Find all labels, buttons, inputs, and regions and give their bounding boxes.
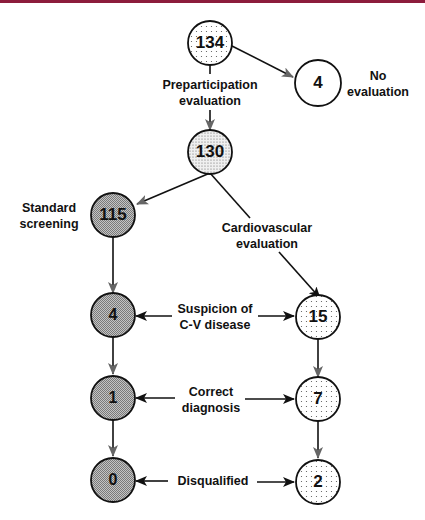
- label-disqualified: Disqualified: [170, 473, 256, 489]
- label-standard-line1: Standard: [14, 200, 84, 216]
- arrow-to-115: [137, 173, 210, 204]
- label-suspicion-line2: C-V disease: [172, 317, 258, 333]
- node-cv-2-value: 2: [313, 472, 322, 492]
- label-preparticipation-line2: evaluation: [152, 93, 268, 109]
- label-cardio-line1: Cardiovascular: [214, 220, 320, 236]
- label-standard-screening: Standard screening: [14, 200, 84, 232]
- node-std-4-value: 4: [109, 306, 118, 324]
- label-standard-line2: screening: [14, 216, 84, 232]
- label-correct-diagnosis: Correct diagnosis: [176, 384, 246, 416]
- node-130-value: 130: [196, 142, 224, 162]
- label-cardio-line2: evaluation: [214, 236, 320, 252]
- node-no-eval-value: 4: [313, 73, 322, 93]
- arrow-to-no-eval: [230, 45, 293, 77]
- label-correct-line1: Correct: [176, 384, 246, 400]
- node-std-1-value: 1: [109, 389, 118, 407]
- label-suspicion-line1: Suspicion of: [172, 301, 258, 317]
- node-cv-7-value: 7: [313, 389, 322, 409]
- label-no-evaluation: No evaluation: [343, 68, 413, 100]
- line-to-cardio-label: [210, 173, 250, 218]
- node-cv-15-value: 15: [309, 307, 328, 327]
- label-cardiovascular-evaluation: Cardiovascular evaluation: [214, 220, 320, 252]
- label-no-evaluation-line2: evaluation: [343, 84, 413, 100]
- label-correct-line2: diagnosis: [176, 400, 246, 416]
- node-std-0-value: 0: [109, 471, 118, 489]
- label-no-evaluation-line1: No: [343, 68, 413, 84]
- label-suspicion: Suspicion of C-V disease: [172, 301, 258, 333]
- node-115-value: 115: [99, 205, 126, 225]
- arrow-to-15: [279, 252, 320, 298]
- label-preparticipation-line1: Preparticipation: [152, 77, 268, 93]
- node-134-value: 134: [196, 33, 224, 53]
- label-preparticipation: Preparticipation evaluation: [152, 77, 268, 109]
